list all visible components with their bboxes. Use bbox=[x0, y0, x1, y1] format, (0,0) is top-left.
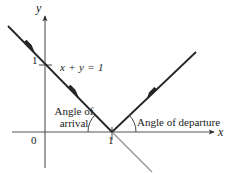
incoming-branch-arrowhead-upper bbox=[24, 40, 35, 53]
figure-canvas bbox=[0, 0, 231, 174]
angle-of-departure-label: Angle of departure bbox=[137, 117, 220, 129]
angle-of-arrival-label: Angle of arrival bbox=[44, 106, 104, 129]
incoming-branch-arrowhead-lower bbox=[68, 85, 79, 98]
y-axis-tick-label-one: 1 bbox=[32, 55, 38, 67]
y-axis-label: y bbox=[36, 2, 41, 15]
line-equation-label: x + y = 1 bbox=[60, 62, 104, 74]
figure-root: y x 1 1 0 x + y = 1 Angle of arrival Ang… bbox=[0, 0, 231, 174]
angle-of-departure-arc bbox=[129, 115, 136, 132]
outgoing-branch-arrowhead bbox=[146, 87, 158, 100]
x-axis-tick-label-one: 1 bbox=[108, 135, 114, 147]
ghost-continuation-line bbox=[112, 132, 152, 172]
origin-label: 0 bbox=[31, 135, 37, 147]
